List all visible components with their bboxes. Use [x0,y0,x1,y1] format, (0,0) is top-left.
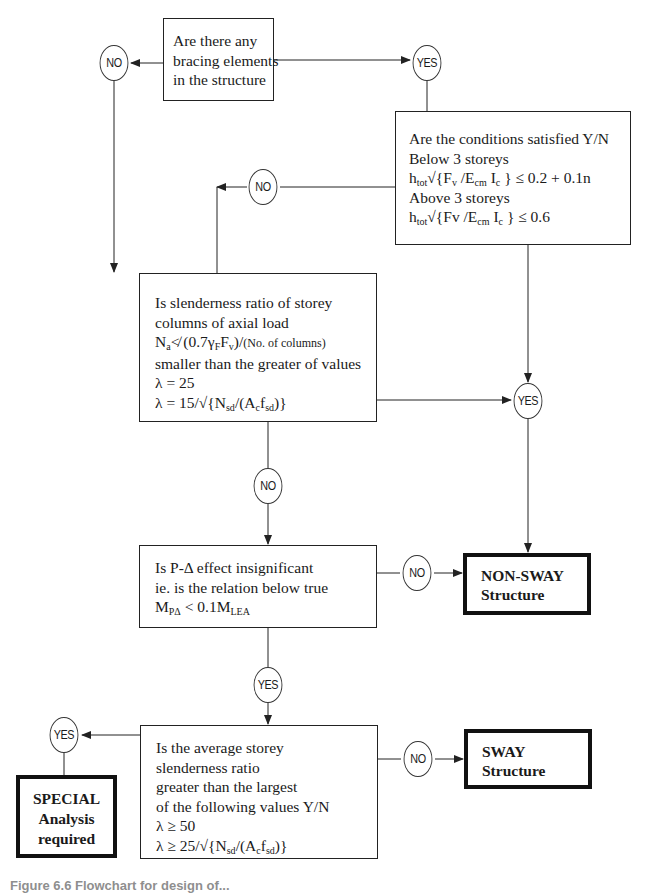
conditions-formula-1: htot√{Fv /Ecm Ic } ≤ 0.2 + 0.1n [409,168,609,188]
slenderness-lambda-2: λ = 15/√{Nsd/(Acfsd)} [155,393,361,413]
p-delta-relation: MPΔ < 0.1MLEA [155,597,328,617]
axial-rest: ≮ (0.7γ [171,333,215,350]
p-delta-question-box: Is P-Δ effect insignificant ie. is the r… [139,545,377,628]
f1-h: h [409,169,417,186]
p-delta-yes-circle: YES [254,667,283,703]
slenderness-line-1: Is slenderness ratio of storey [155,293,361,313]
axial-n: N [155,333,166,350]
sl-l2-f-sub: sd [265,402,274,413]
pd-m: M [155,598,169,615]
bracing-line-2: bracing elements [173,51,278,71]
f2-h-sub: tot [417,216,428,227]
axial-close: )/ [234,333,243,350]
average-no-circle: NO [404,741,433,777]
av-l2-f-sub: sd [266,845,275,856]
conditions-question-box: Are the conditions satisfied Y/N Below 3… [395,111,631,245]
average-line-5: λ ≥ 50 [156,816,329,836]
slenderness-line-3: smaller than the greater of values [155,354,361,374]
bracing-no-circle: NO [100,45,129,81]
pd-mid: < 0.1M [181,598,231,615]
slenderness-question-box: Is slenderness ratio of storey columns o… [139,273,377,422]
special-analysis-box: SPECIAL Analysis required [16,775,117,858]
p-delta-no-circle: NO [403,555,432,591]
p-delta-line-2: ie. is the relation below true [155,578,328,598]
av-l2-mid: /(A [236,837,257,854]
slenderness-yes-circle: YES [514,383,543,419]
sway-line-1: SWAY [482,742,545,761]
non-sway-structure-box: NON-SWAY Structure [463,553,591,615]
average-yes-circle: YES [50,717,79,753]
average-line-3: greater than the largest [156,777,329,797]
special-line-1: SPECIAL [20,789,113,809]
non-sway-line-2: Structure [481,585,564,604]
slenderness-no-circle: NO [254,468,283,504]
slenderness-line-2: columns of axial load [155,313,361,333]
bracing-line-1: Are there any [173,31,278,51]
conditions-no-circle: NO [249,169,278,205]
f1-h-sub: tot [417,177,428,188]
f1-rest2: /E [457,169,475,186]
average-line-2: slenderness ratio [156,758,329,778]
pd-m-sub: PΔ [169,606,181,617]
average-line-4: of the following values Y/N [156,797,329,817]
special-line-2: Analysis [20,809,113,829]
average-slenderness-question-box: Is the average storey slenderness ratio … [140,725,378,859]
sway-structure-box: SWAY Structure [464,729,592,789]
p-delta-line-1: Is P-Δ effect insignificant [155,558,328,578]
sl-l2-mid: /(A [235,394,256,411]
average-line-1: Is the average storey [156,738,329,758]
axial-f: F [220,333,229,350]
slenderness-line-4: λ = 25 [155,373,361,393]
f2-rest3: I [490,208,499,225]
f1-e-sub: cm [475,177,487,188]
f2-e-sub: cm [477,216,489,227]
f1-rest1: √{F [427,169,452,186]
av-l2-n-sub: sd [227,845,236,856]
sl-l2-pre: λ = 15/√{N [155,394,226,411]
sl-l2-n-sub: sd [226,402,235,413]
sway-line-2: Structure [482,761,545,780]
axial-note: (No. of columns) [243,336,325,350]
sl-l2-post: )} [274,394,287,411]
average-lambda-2: λ ≥ 25/√{Nsd/(Acfsd)} [156,836,329,856]
f2-rest1: √{Fv /E [427,208,477,225]
special-line-3: required [20,829,113,849]
figure-caption: Figure 6.6 Flowchart for design of... [10,878,230,893]
av-l2-post: )} [275,837,288,854]
slenderness-axial-load: Na≮ (0.7γFFv)/(No. of columns) [155,332,361,354]
f2-rest4: } ≤ 0.6 [503,208,550,225]
bracing-line-3: in the structure [173,70,278,90]
conditions-line-3: Above 3 storeys [409,188,609,208]
f2-h: h [409,208,417,225]
non-sway-line-1: NON-SWAY [481,566,564,585]
f1-rest3: I [487,169,496,186]
conditions-line-1: Are the conditions satisfied Y/N [409,129,609,149]
conditions-line-2: Below 3 storeys [409,149,609,169]
conditions-formula-2: htot√{Fv /Ecm Ic } ≤ 0.6 [409,207,609,227]
f1-rest4: } ≤ 0.2 + 0.1n [500,169,591,186]
pd-m2-sub: LEA [230,606,249,617]
bracing-yes-circle: YES [413,45,442,81]
av-l2-pre: λ ≥ 25/√{N [156,837,227,854]
bracing-question-box: Are there any bracing elements in the st… [163,18,274,101]
